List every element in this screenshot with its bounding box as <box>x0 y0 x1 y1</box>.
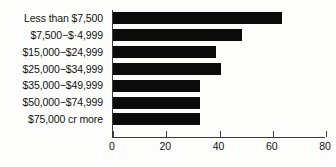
bar <box>112 12 282 24</box>
bar-row <box>112 44 325 61</box>
x-axis-tick-labels: 020406080 <box>112 140 325 160</box>
bar-row <box>112 77 325 94</box>
bar-chart: Less than $7,500 $7,500−$·4,999 $15,000−… <box>0 0 336 167</box>
bar-row <box>112 94 325 111</box>
y-tick-label: $15,000−$24,999 <box>0 44 108 61</box>
x-tick-label: 40 <box>213 140 225 152</box>
x-tick-mark <box>220 131 221 137</box>
bar-row <box>112 61 325 78</box>
x-tick-mark <box>113 131 114 137</box>
bar <box>112 97 200 109</box>
bar-row <box>112 10 325 27</box>
bar <box>112 46 216 58</box>
x-tick-mark <box>326 131 327 137</box>
bar-row <box>112 111 325 128</box>
bar <box>112 63 221 75</box>
y-tick-label: $25,000−$34,999 <box>0 61 108 78</box>
bar <box>112 113 200 125</box>
x-tick-label: 20 <box>159 140 171 152</box>
x-tick-label: 60 <box>266 140 278 152</box>
y-tick-label: Less than $7,500 <box>0 10 108 27</box>
x-tick-label: 80 <box>319 140 331 152</box>
x-tick-label: 0 <box>109 140 115 152</box>
y-tick-label: $75,000 cr more <box>0 111 108 128</box>
bar-row <box>112 27 325 44</box>
plot-area <box>112 10 325 138</box>
x-tick-mark <box>273 131 274 137</box>
y-tick-label: $50,000−$74,999 <box>0 94 108 111</box>
x-tick-mark <box>166 131 167 137</box>
y-tick-label: $35,000−$49,999 <box>0 77 108 94</box>
y-axis-category-labels: Less than $7,500 $7,500−$·4,999 $15,000−… <box>0 10 108 128</box>
bar <box>112 80 200 92</box>
bar <box>112 29 242 41</box>
y-tick-label: $7,500−$·4,999 <box>0 27 108 44</box>
bars-layer <box>112 10 325 128</box>
